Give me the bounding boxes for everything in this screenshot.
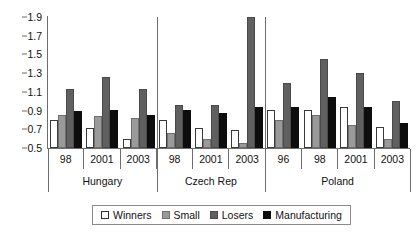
y-tick-label: 1.3	[27, 67, 48, 79]
bar-cluster	[301, 17, 337, 148]
year-label: 2001	[83, 149, 119, 169]
bar-small	[203, 139, 211, 148]
bar-small	[131, 118, 139, 148]
legend-item-small: Small	[162, 209, 200, 221]
year-label: 98	[301, 149, 337, 169]
bar-manufacturing	[147, 115, 155, 148]
legend-item-winners: Winners	[101, 209, 152, 221]
bar-small	[384, 139, 392, 148]
legend-label: Losers	[222, 209, 254, 221]
year-group	[301, 17, 337, 148]
year-label: 96	[265, 149, 301, 169]
bar-losers	[247, 17, 255, 148]
bar-chart: 0.50.70.91.11.31.51.71.9 982001200398200…	[0, 0, 418, 232]
bar-winners	[231, 130, 239, 148]
legend-item-manufacturing: Manufacturing	[263, 209, 342, 221]
legend-swatch-small	[162, 211, 170, 219]
legend-label: Small	[174, 209, 200, 221]
legend-label: Winners	[113, 209, 152, 221]
year-label: 98	[156, 149, 192, 169]
country-boundary-tick	[265, 149, 266, 192]
bar-small	[312, 115, 320, 148]
bar-manufacturing	[328, 97, 336, 148]
bar-winners	[376, 127, 384, 148]
year-label: 2003	[374, 149, 410, 169]
country-label: Poland	[265, 170, 410, 192]
bar-small	[348, 125, 356, 148]
bar-winners	[267, 110, 275, 148]
bar-winners	[340, 107, 348, 148]
y-tick-mark	[22, 148, 27, 149]
bar-manufacturing	[364, 107, 372, 148]
bar-winners	[86, 128, 94, 148]
year-group	[338, 17, 374, 148]
y-tick-mark	[22, 17, 27, 18]
chart-legend: WinnersSmallLosersManufacturing	[92, 205, 351, 225]
year-group	[84, 17, 120, 148]
x-axis-year-labels: 98200120039820012003969820012003	[48, 149, 410, 169]
bar-cluster	[48, 17, 84, 148]
legend-swatch-losers	[210, 211, 218, 219]
year-group	[48, 17, 84, 148]
country-boundary-tick	[48, 149, 49, 192]
bar-losers	[356, 73, 364, 148]
bar-manufacturing	[291, 107, 299, 148]
bar-cluster	[338, 17, 374, 148]
y-tick-label: 0.7	[27, 123, 48, 135]
bar-small	[275, 120, 283, 148]
bar-small	[167, 133, 175, 148]
country-boundary-tick	[410, 149, 411, 192]
bar-winners	[304, 110, 312, 148]
bar-manufacturing	[400, 123, 408, 148]
bar-manufacturing	[219, 113, 227, 148]
plot-area: 0.50.70.91.11.31.51.71.9	[48, 17, 410, 148]
y-tick-label: 0.5	[27, 142, 48, 154]
legend-swatch-manufacturing	[263, 211, 271, 219]
x-axis-country-labels: HungaryCzech RepPoland	[48, 170, 410, 192]
bar-manufacturing	[183, 110, 191, 148]
bar-manufacturing	[255, 107, 263, 148]
bar-small	[239, 143, 247, 148]
bar-cluster	[229, 17, 265, 148]
bar-winners	[123, 139, 131, 148]
year-group	[193, 17, 229, 148]
year-label: 98	[48, 149, 83, 169]
bar-losers	[66, 89, 74, 148]
y-tick-mark	[22, 91, 27, 92]
bar-losers	[283, 83, 291, 149]
bar-losers	[102, 77, 110, 148]
y-tick-label: 1.7	[27, 30, 48, 42]
year-group	[265, 17, 301, 148]
country-label: Hungary	[48, 170, 157, 192]
y-tick-label: 1.1	[27, 86, 48, 98]
country-separator	[157, 17, 158, 148]
country-label: Czech Rep	[157, 170, 266, 192]
bar-cluster	[193, 17, 229, 148]
bar-losers	[175, 105, 183, 148]
bar-losers	[320, 59, 328, 148]
y-tick-label: 1.9	[27, 11, 48, 23]
y-tick-mark	[22, 73, 27, 74]
bar-cluster	[374, 17, 410, 148]
bar-cluster	[120, 17, 156, 148]
bar-groups	[48, 17, 410, 148]
y-tick-mark	[22, 54, 27, 55]
legend-label: Manufacturing	[275, 209, 342, 221]
bar-small	[58, 115, 66, 148]
bar-winners	[159, 120, 167, 148]
bar-winners	[50, 120, 58, 148]
bar-manufacturing	[74, 111, 82, 148]
y-tick-mark	[22, 110, 27, 111]
bar-losers	[211, 105, 219, 148]
legend-swatch-winners	[101, 211, 109, 219]
y-tick-label: 0.9	[27, 105, 48, 117]
bar-cluster	[265, 17, 301, 148]
year-group	[374, 17, 410, 148]
bar-winners	[195, 128, 203, 148]
bar-losers	[139, 89, 147, 148]
year-group	[229, 17, 265, 148]
year-label: 2001	[192, 149, 228, 169]
country-boundary-tick	[157, 149, 158, 192]
year-label: 2001	[337, 149, 373, 169]
y-tick-mark	[22, 35, 27, 36]
